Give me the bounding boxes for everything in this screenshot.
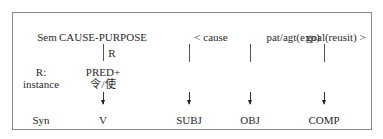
sem-arg-goal: goal(reusit) > <box>306 31 366 43</box>
r-row-label: R: <box>36 66 46 78</box>
sem-arg-cause: < cause <box>194 31 227 43</box>
arrow-down-icon <box>324 92 325 104</box>
instance-row-label: instance <box>23 78 59 90</box>
diagram-frame <box>12 12 372 130</box>
syn-obj: OBJ <box>240 114 260 126</box>
arrow-down-icon <box>250 92 251 104</box>
syn-row-label: Syn <box>32 114 49 126</box>
instance-line2: 令/使 <box>90 78 115 90</box>
goal-line <box>324 44 325 62</box>
sem-row-label: Sem <box>37 31 57 43</box>
syn-comp: COMP <box>308 114 339 126</box>
syn-subj: SUBJ <box>176 114 202 126</box>
arrow-down-icon <box>189 92 190 104</box>
syn-v: V <box>99 114 107 126</box>
sem-predicate: CAUSE-PURPOSE <box>59 31 147 43</box>
arrow-down-icon <box>103 92 104 104</box>
instance-line1: PRED+ <box>86 66 120 78</box>
relation-label: R <box>108 47 115 59</box>
pat-agt-line <box>250 44 251 62</box>
cause-line <box>189 44 190 62</box>
relation-line <box>103 44 104 61</box>
